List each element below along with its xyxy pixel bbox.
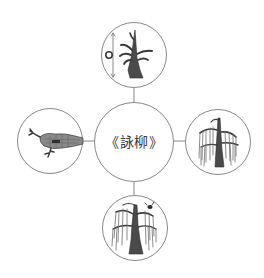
node-bottom xyxy=(103,196,168,261)
node-left xyxy=(18,109,84,174)
center-node: 《詠柳》 xyxy=(95,103,174,182)
mind-map-diagram: 《詠柳》 xyxy=(0,0,264,278)
center-title: 《詠柳》 xyxy=(105,134,163,150)
node-right xyxy=(186,110,251,175)
node-top xyxy=(102,23,167,88)
